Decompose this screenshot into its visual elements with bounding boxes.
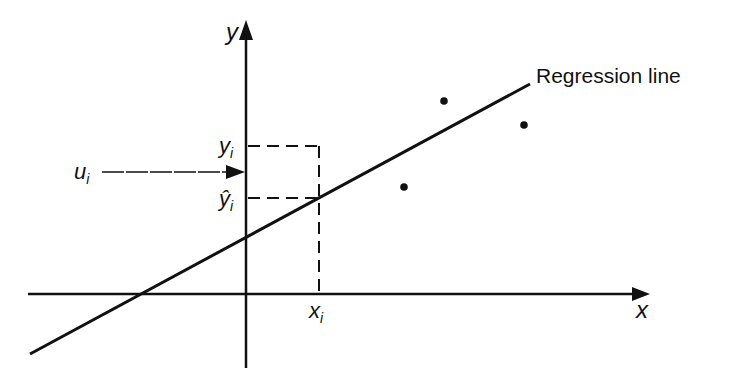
yhat-label: ŷi: [217, 186, 234, 214]
xi-label: xi: [308, 298, 324, 326]
x-axis-label: x: [635, 296, 649, 323]
y-axis-arrow-icon: [239, 20, 253, 40]
y-axis: [239, 20, 253, 368]
ui-arrow: [102, 165, 245, 179]
ui-arrowhead-icon: [226, 165, 245, 179]
regression-line-label: Regression line: [536, 64, 681, 87]
data-point: [520, 121, 528, 129]
y-axis-label: y: [224, 18, 240, 45]
regression-diagram: y x yi ŷi ui xi Regression line: [0, 0, 729, 386]
yi-label: yi: [217, 133, 234, 161]
data-point: [440, 97, 448, 105]
data-point: [400, 183, 408, 191]
ui-label: ui: [74, 159, 90, 187]
x-axis: [28, 287, 650, 301]
regression-line: [30, 84, 530, 354]
dashed-guides: [248, 146, 319, 294]
